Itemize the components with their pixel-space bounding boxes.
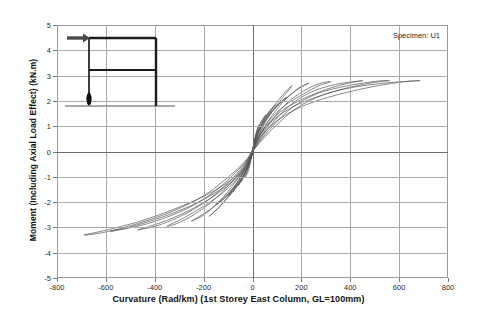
x-tick-400 <box>350 278 351 282</box>
y-tick-label-1: 1 <box>47 122 51 131</box>
y-tick--5 <box>53 278 57 279</box>
x-tick-label-600: 600 <box>393 283 406 292</box>
x-tick--600 <box>106 278 107 282</box>
y-tick--4 <box>53 253 57 254</box>
gridline-y--1 <box>57 177 448 178</box>
y-tick--3 <box>53 227 57 228</box>
y-tick-label-4: 4 <box>47 46 51 55</box>
x-tick-label--600: -600 <box>98 283 113 292</box>
y-tick--2 <box>53 202 57 203</box>
y-tick--1 <box>53 177 57 178</box>
y-tick-2 <box>53 101 57 102</box>
x-tick-label-800: 800 <box>442 283 455 292</box>
lateral-load-arrow <box>67 34 90 43</box>
gridline-y-1 <box>57 126 448 127</box>
y-axis-title: Moment (Including Axial Load Effect) (kN… <box>28 25 38 275</box>
y-tick-label--1: -1 <box>44 172 51 181</box>
gridline-y-0 <box>57 152 448 153</box>
y-tick-label-5: 5 <box>47 21 51 30</box>
x-tick--800 <box>57 278 58 282</box>
plastic-hinge-marker <box>86 93 91 106</box>
x-tick-label-200: 200 <box>295 283 308 292</box>
x-tick--400 <box>155 278 156 282</box>
x-tick-600 <box>399 278 400 282</box>
y-tick-1 <box>53 126 57 127</box>
plot-area: -800-600-400-2000200400600800-5-4-3-2-10… <box>57 25 448 278</box>
x-tick-200 <box>301 278 302 282</box>
y-tick-label-2: 2 <box>47 96 51 105</box>
y-tick-label--4: -4 <box>44 248 51 257</box>
y-tick-5 <box>53 25 57 26</box>
gridline-y--2 <box>57 202 448 203</box>
x-tick-0 <box>253 278 254 282</box>
specimen-label: Specimen: U1 <box>393 31 440 40</box>
y-tick-label-3: 3 <box>47 71 51 80</box>
x-tick--200 <box>204 278 205 282</box>
gridline-y--4 <box>57 253 448 254</box>
y-tick-0 <box>53 152 57 153</box>
x-tick-label--400: -400 <box>147 283 162 292</box>
x-axis-title: Curvature (Rad/km) (1st Storey East Colu… <box>0 294 477 304</box>
y-tick-4 <box>53 50 57 51</box>
y-tick-3 <box>53 76 57 77</box>
x-tick-label-400: 400 <box>344 283 357 292</box>
y-tick-label--5: -5 <box>44 274 51 283</box>
x-tick-label-0: 0 <box>250 283 254 292</box>
x-tick-label--800: -800 <box>49 283 64 292</box>
x-tick-800 <box>448 278 449 282</box>
hysteresis-chart-figure: Moment (Including Axial Load Effect) (kN… <box>0 0 477 323</box>
gridline-y--3 <box>57 227 448 228</box>
x-tick-label--200: -200 <box>196 283 211 292</box>
y-tick-label-0: 0 <box>47 147 51 156</box>
frame-elevation-inset <box>63 30 183 120</box>
y-tick-label--3: -3 <box>44 223 51 232</box>
y-tick-label--2: -2 <box>44 198 51 207</box>
